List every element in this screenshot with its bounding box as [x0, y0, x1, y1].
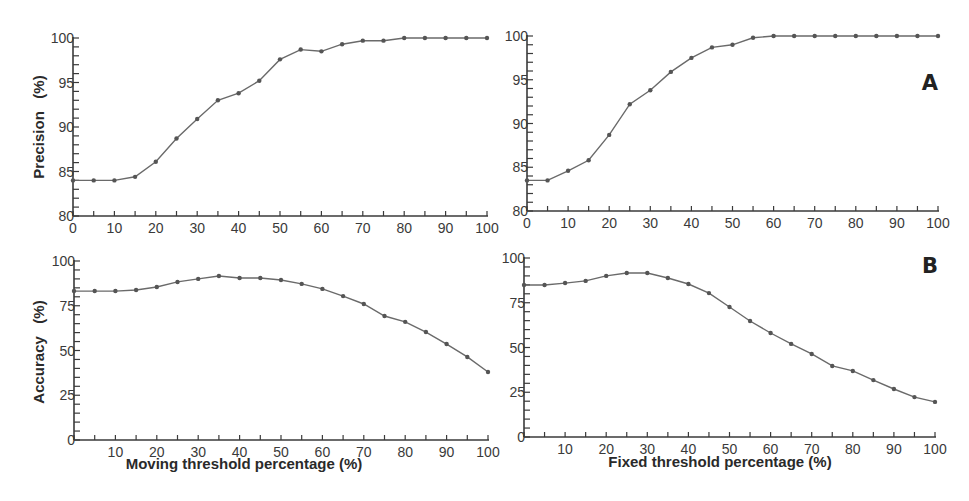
data-point-marker	[833, 34, 837, 38]
data-point-marker	[195, 117, 199, 121]
data-point-marker	[320, 287, 324, 291]
x-tick-label: 50	[272, 220, 288, 236]
data-point-marker	[236, 91, 240, 95]
precision-moving-chart: 010203040506070809010080859095100	[51, 30, 499, 236]
data-point-marker	[710, 45, 714, 49]
data-point-marker	[771, 34, 775, 38]
data-point-marker	[154, 160, 158, 164]
data-point-marker	[237, 276, 241, 280]
data-point-marker	[423, 36, 427, 40]
y-tick-label: 100	[52, 253, 76, 269]
precision-fixed-chart: 010203040506070809010080859095100	[505, 28, 950, 231]
x-tick-label: 80	[845, 441, 861, 457]
data-point-marker	[563, 281, 567, 285]
data-point-marker	[403, 320, 407, 324]
data-point-marker	[707, 291, 711, 295]
data-point-marker	[936, 34, 940, 38]
data-point-marker	[645, 271, 649, 275]
data-point-marker	[525, 178, 529, 182]
data-point-marker	[730, 43, 734, 47]
data-point-marker	[424, 330, 428, 334]
panel-label-a: A	[922, 71, 939, 95]
data-point-marker	[444, 342, 448, 346]
data-point-marker	[216, 98, 220, 102]
data-point-marker	[381, 38, 385, 42]
y-tick-label: 100	[505, 28, 529, 44]
y-tick-label: 80	[58, 208, 74, 224]
y-tick-label: 95	[512, 72, 528, 88]
x-axis-label-moving: Moving threshold percentage (%)	[126, 455, 363, 472]
y-tick-label: 0	[67, 432, 75, 448]
y-tick-label: 25	[59, 387, 75, 403]
data-point-marker	[112, 178, 116, 182]
data-point-marker	[854, 34, 858, 38]
x-tick-label: 80	[397, 444, 413, 460]
data-point-marker	[648, 88, 652, 92]
y-tick-label: 90	[58, 119, 74, 135]
data-point-marker	[607, 133, 611, 137]
x-tick-label: 90	[439, 444, 455, 460]
data-point-marker	[175, 280, 179, 284]
y-tick-label: 95	[58, 75, 74, 91]
data-point-marker	[545, 178, 549, 182]
data-point-marker	[933, 400, 937, 404]
data-point-marker	[71, 178, 75, 182]
y-tick-label: 0	[517, 429, 525, 445]
data-point-marker	[566, 169, 570, 173]
data-point-marker	[789, 342, 793, 346]
data-point-marker	[133, 175, 137, 179]
data-point-marker	[915, 34, 919, 38]
y-tick-label: 85	[58, 164, 74, 180]
figure-canvas: 010203040506070809010080859095100 010203…	[0, 0, 969, 501]
x-axis-label-fixed: Fixed threshold percentage (%)	[608, 453, 831, 470]
x-tick-label: 30	[189, 220, 205, 236]
data-point-marker	[443, 36, 447, 40]
x-tick-label: 80	[396, 220, 412, 236]
data-point-marker	[625, 271, 629, 275]
x-tick-label: 60	[766, 215, 782, 231]
accuracy-moving-chart: 1020304050607080901000255075100	[52, 253, 500, 460]
data-point-marker	[748, 319, 752, 323]
data-point-marker	[72, 289, 76, 293]
data-point-marker	[464, 36, 468, 40]
data-point-marker	[278, 57, 282, 61]
data-point-marker	[402, 36, 406, 40]
data-point-marker	[813, 34, 817, 38]
x-tick-label: 100	[475, 220, 499, 236]
data-point-marker	[727, 305, 731, 309]
data-point-marker	[340, 42, 344, 46]
data-point-marker	[871, 378, 875, 382]
data-point-marker	[768, 331, 772, 335]
data-point-marker	[686, 282, 690, 286]
data-point-marker	[810, 352, 814, 356]
data-point-marker	[830, 364, 834, 368]
data-point-marker	[217, 274, 221, 278]
data-point-marker	[689, 56, 693, 60]
x-tick-label: 20	[148, 220, 164, 236]
data-point-marker	[361, 38, 365, 42]
data-point-marker	[669, 70, 673, 74]
y-axis-label-accuracy: Accuracy (%)	[30, 300, 47, 403]
data-point-marker	[522, 283, 526, 287]
data-point-marker	[604, 274, 608, 278]
x-tick-label: 100	[923, 441, 947, 457]
data-point-marker	[155, 285, 159, 289]
y-tick-label: 25	[509, 384, 525, 400]
data-point-marker	[895, 34, 899, 38]
x-tick-label: 40	[684, 215, 700, 231]
data-point-marker	[465, 355, 469, 359]
y-axis-label-precision: Precision (%)	[30, 75, 47, 178]
data-point-marker	[319, 49, 323, 53]
data-point-marker	[851, 369, 855, 373]
data-point-marker	[666, 276, 670, 280]
y-tick-label: 90	[512, 116, 528, 132]
data-point-marker	[486, 370, 490, 374]
x-tick-label: 90	[886, 441, 902, 457]
y-tick-label: 80	[512, 203, 528, 219]
data-point-marker	[485, 36, 489, 40]
data-point-marker	[341, 294, 345, 298]
data-point-marker	[628, 102, 632, 106]
data-point-marker	[542, 283, 546, 287]
x-tick-label: 40	[231, 220, 247, 236]
data-point-marker	[93, 289, 97, 293]
